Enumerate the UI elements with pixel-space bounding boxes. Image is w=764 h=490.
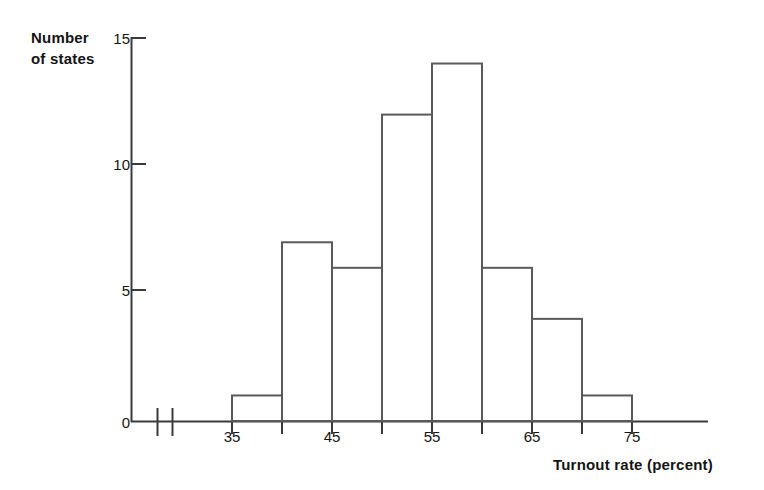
plot-area (0, 0, 764, 490)
histogram-bar (482, 268, 532, 421)
histogram-bar (382, 115, 432, 421)
histogram-bars (232, 64, 632, 421)
histogram-bar (432, 64, 482, 421)
histogram-bar (232, 395, 282, 421)
histogram-bar (582, 395, 632, 421)
histogram-bar (532, 319, 582, 421)
histogram-chart: Number of states Turnout rate (percent) … (0, 0, 764, 490)
histogram-bar (332, 268, 382, 421)
histogram-bar (282, 242, 332, 421)
